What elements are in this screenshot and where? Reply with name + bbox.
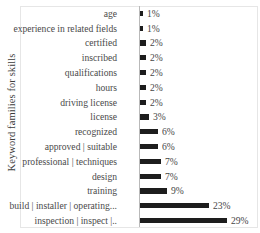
bar-row: age1% bbox=[0, 6, 260, 21]
bar-row: driving license2% bbox=[0, 95, 260, 110]
bar[interactable] bbox=[140, 40, 146, 45]
category-label: recognized bbox=[75, 126, 121, 137]
category-label: age bbox=[104, 8, 121, 19]
bar-value-label: 9% bbox=[171, 185, 184, 196]
bar-value-label: 6% bbox=[162, 126, 175, 137]
bar[interactable] bbox=[140, 144, 158, 149]
bar-value-label: 2% bbox=[150, 97, 163, 108]
category-label: inscribed bbox=[82, 52, 121, 63]
bar[interactable] bbox=[140, 26, 143, 31]
bar-row: hours2% bbox=[0, 80, 260, 95]
category-label: hours bbox=[96, 82, 121, 93]
bar[interactable] bbox=[140, 218, 227, 223]
bar[interactable] bbox=[140, 70, 146, 75]
bar-holder: 1% bbox=[140, 21, 160, 36]
bar[interactable] bbox=[140, 203, 209, 208]
bar-row: approved | suitable6% bbox=[0, 139, 260, 154]
bar[interactable] bbox=[140, 85, 146, 90]
category-label: inspection | inspect |.. bbox=[35, 215, 121, 226]
bar-row: license3% bbox=[0, 110, 260, 125]
bar[interactable] bbox=[140, 11, 143, 16]
bar-row: experience in related fields1% bbox=[0, 21, 260, 36]
category-label: approved | suitable bbox=[45, 141, 121, 152]
bar[interactable] bbox=[140, 174, 161, 179]
bar[interactable] bbox=[140, 129, 158, 134]
bar-holder: 2% bbox=[140, 65, 163, 80]
category-label: professional | techniques bbox=[22, 156, 121, 167]
bar[interactable] bbox=[140, 159, 161, 164]
category-label: training bbox=[87, 185, 121, 196]
bar-row: inspection | inspect |..29% bbox=[0, 213, 260, 228]
bar-row: recognized6% bbox=[0, 124, 260, 139]
bar-value-label: 2% bbox=[150, 82, 163, 93]
bar-holder: 2% bbox=[140, 95, 163, 110]
bar-holder: 23% bbox=[140, 198, 231, 213]
bar[interactable] bbox=[140, 55, 146, 60]
bar-value-label: 7% bbox=[165, 156, 178, 167]
bar-value-label: 2% bbox=[150, 37, 163, 48]
bar-holder: 6% bbox=[140, 124, 175, 139]
category-label: build | installer | operating... bbox=[10, 200, 122, 211]
bar-rows: age1%experience in related fields1%certi… bbox=[0, 6, 260, 228]
bar-value-label: 7% bbox=[165, 171, 178, 182]
bar-holder: 2% bbox=[140, 80, 163, 95]
bar-row: professional | techniques7% bbox=[0, 154, 260, 169]
bar-value-label: 23% bbox=[213, 200, 231, 211]
category-label: certified bbox=[85, 37, 121, 48]
category-label: qualifications bbox=[65, 67, 121, 78]
bar-value-label: 1% bbox=[147, 23, 160, 34]
bar-row: qualifications2% bbox=[0, 65, 260, 80]
bar-holder: 29% bbox=[140, 213, 249, 228]
category-label: experience in related fields bbox=[13, 23, 121, 34]
bar-chart-figure: Keyword families for skills age1%experie… bbox=[0, 0, 260, 233]
bar-value-label: 6% bbox=[162, 141, 175, 152]
bar-holder: 7% bbox=[140, 169, 178, 184]
bar-value-label: 2% bbox=[150, 67, 163, 78]
bar-row: certified2% bbox=[0, 36, 260, 51]
bar-value-label: 2% bbox=[150, 52, 163, 63]
bar-holder: 9% bbox=[140, 184, 184, 199]
bar-row: design7% bbox=[0, 169, 260, 184]
bar[interactable] bbox=[140, 100, 146, 105]
category-label: license bbox=[90, 111, 121, 122]
bar-value-label: 29% bbox=[231, 215, 249, 226]
bar-holder: 3% bbox=[140, 110, 166, 125]
category-label: design bbox=[92, 171, 121, 182]
bar-value-label: 1% bbox=[147, 8, 160, 19]
bar-holder: 1% bbox=[140, 6, 160, 21]
bar-holder: 2% bbox=[140, 50, 163, 65]
bar-value-label: 3% bbox=[153, 111, 166, 122]
bar-row: build | installer | operating...23% bbox=[0, 198, 260, 213]
bar-row: inscribed2% bbox=[0, 50, 260, 65]
bar[interactable] bbox=[140, 188, 167, 193]
bar[interactable] bbox=[140, 114, 149, 119]
bar-holder: 7% bbox=[140, 154, 178, 169]
bar-holder: 6% bbox=[140, 139, 175, 154]
category-label: driving license bbox=[60, 97, 121, 108]
bar-holder: 2% bbox=[140, 36, 163, 51]
bar-row: training9% bbox=[0, 184, 260, 199]
